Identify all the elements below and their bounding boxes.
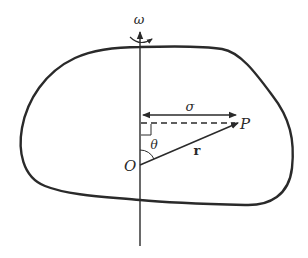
omega-label: ω xyxy=(134,12,145,27)
rotation-arrow-icon xyxy=(130,37,152,43)
right-angle-marker xyxy=(141,124,151,135)
point-p-label: P xyxy=(239,115,251,133)
theta-label: θ xyxy=(150,138,158,152)
body-outline xyxy=(21,46,293,205)
radius-vector-label: r xyxy=(194,143,201,158)
rotating-body-diagram: ω σ θ P O r xyxy=(0,0,308,258)
origin-label: O xyxy=(124,157,136,175)
sigma-label: σ xyxy=(186,99,196,114)
